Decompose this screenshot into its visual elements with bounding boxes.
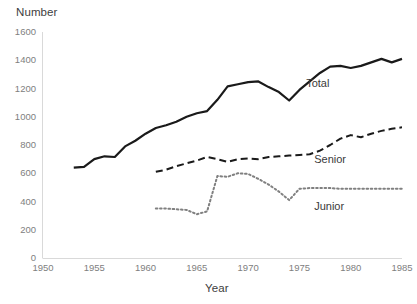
series-label-senior: Senior	[314, 153, 346, 165]
series-lines	[74, 59, 402, 214]
series-label-total: Total	[306, 77, 329, 89]
series-label-junior: Junior	[314, 200, 344, 212]
series-line-junior	[156, 173, 402, 214]
series-line-senior	[156, 127, 402, 172]
axis-lines	[43, 32, 403, 259]
series-line-total	[74, 59, 402, 168]
